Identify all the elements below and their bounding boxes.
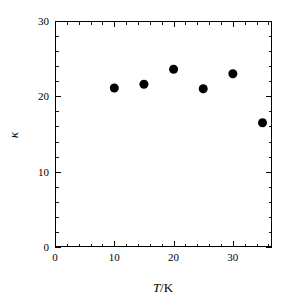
axes-frame [55,21,272,247]
y-axis-major-ticks [55,22,272,248]
scatter-plot: 0102030 0102030 T/K κ [0,0,293,305]
data-point [169,65,178,74]
x-tick-label-10: 10 [109,251,121,263]
y-axis-minor-ticks [55,37,272,233]
data-point [199,84,208,93]
x-tick-label-30: 30 [227,251,239,263]
y-tick-label-20: 20 [38,90,50,102]
x-axis-title-unit: K [164,280,174,295]
data-point [258,118,267,127]
y-tick-label-0: 0 [44,241,50,253]
x-axis-title: T/K [153,280,174,295]
x-tick-label-20: 20 [168,251,180,263]
data-series-points [110,65,267,127]
chart-figure: 0102030 0102030 T/K κ [0,0,293,305]
x-axis-tick-labels: 0102030 [52,251,239,263]
data-point [228,69,237,78]
x-axis-major-ticks [56,21,234,247]
data-point [139,80,148,89]
data-point [110,84,119,93]
y-tick-label-10: 10 [38,166,50,178]
x-axis-minor-ticks [68,21,269,247]
y-tick-label-30: 30 [38,15,50,27]
y-axis-tick-labels: 0102030 [38,15,50,253]
x-tick-label-0: 0 [52,251,58,263]
y-axis-title: κ [6,131,21,138]
